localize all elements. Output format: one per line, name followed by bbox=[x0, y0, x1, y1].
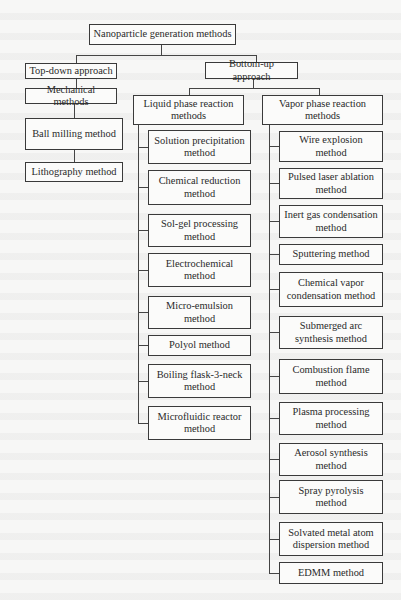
liquid-method-node: Chemical reduction method bbox=[148, 170, 251, 205]
liquid-method-node: Boiling flask-3-neck method bbox=[148, 364, 251, 398]
liquid-method-node: Micro-emulsion method bbox=[148, 296, 251, 329]
connector bbox=[138, 230, 148, 231]
connector bbox=[138, 381, 148, 382]
vapor-method-node: Sputtering method bbox=[279, 244, 383, 265]
liquid-trunk bbox=[138, 125, 139, 423]
mechanical-node: Mechanical methods bbox=[25, 88, 117, 104]
connector bbox=[138, 423, 148, 424]
connector bbox=[269, 221, 279, 222]
vapor-method-node: Inert gas condensation method bbox=[279, 205, 383, 238]
connector bbox=[189, 88, 190, 95]
connector bbox=[138, 345, 148, 346]
connector bbox=[189, 88, 319, 89]
vapor-method-node: Chemical vapor condensation method bbox=[279, 272, 383, 307]
connector bbox=[74, 150, 75, 162]
connector bbox=[269, 254, 279, 255]
liquid-method-node: Polyol method bbox=[148, 335, 251, 356]
vapor-method-node: Spray pyrolysis method bbox=[279, 480, 383, 514]
vapor-method-node: Plasma processing method bbox=[279, 402, 383, 435]
vapor-phase-node: Vapor phase reaction methods bbox=[262, 95, 383, 125]
connector bbox=[76, 55, 77, 63]
vapor-method-node: Wire explosion method bbox=[279, 131, 383, 162]
liquid-method-node: Electrochemical method bbox=[148, 253, 251, 287]
connector bbox=[269, 539, 279, 540]
connector bbox=[269, 183, 279, 184]
connector bbox=[138, 312, 148, 313]
connector bbox=[138, 187, 148, 188]
connector bbox=[269, 376, 279, 377]
vapor-method-node: Combustion flame method bbox=[279, 359, 383, 394]
vapor-method-node: EDMM method bbox=[279, 562, 383, 584]
connector bbox=[138, 270, 148, 271]
top-down-node: Top-down approach bbox=[25, 63, 117, 79]
root-node: Nanoparticle generation methods bbox=[89, 24, 236, 45]
vapor-method-node: Pulsed laser ablation method bbox=[279, 168, 383, 199]
connector bbox=[269, 332, 279, 333]
connector bbox=[161, 45, 162, 55]
connector bbox=[138, 147, 148, 148]
connector bbox=[269, 146, 279, 147]
connector bbox=[269, 459, 279, 460]
vapor-method-node: Aerosol synthesis method bbox=[279, 443, 383, 476]
vapor-trunk bbox=[269, 125, 270, 574]
ball-milling-node: Ball milling method bbox=[25, 118, 123, 150]
vapor-method-node: Solvated metal atom dispersion method bbox=[279, 522, 383, 556]
connector bbox=[269, 418, 279, 419]
vapor-method-node: Submerged arc synthesis method bbox=[279, 316, 383, 349]
liquid-method-node: Solution precipitation method bbox=[148, 130, 251, 164]
connector bbox=[319, 88, 320, 95]
connector bbox=[76, 55, 256, 56]
liquid-method-node: Sol-gel processing method bbox=[148, 214, 251, 247]
liquid-phase-node: Liquid phase reaction methods bbox=[133, 95, 244, 125]
lithography-node: Lithography method bbox=[25, 162, 123, 182]
liquid-method-node: Microfluidic reactor method bbox=[148, 406, 251, 440]
connector bbox=[269, 497, 279, 498]
connector bbox=[269, 573, 279, 574]
connector bbox=[269, 289, 279, 290]
bottom-up-node: Bottom-up approach bbox=[205, 62, 298, 79]
